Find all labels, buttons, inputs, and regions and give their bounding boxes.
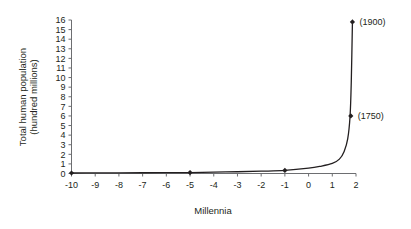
y-axis-tick-label: 1: [60, 159, 65, 169]
y-axis-tick-label: 6: [60, 111, 65, 121]
chart-canvas: 012345678910111213141516 -10-9-8-7-6-5-4…: [0, 0, 411, 229]
x-axis-tick-label: -2: [257, 180, 265, 190]
x-axis-tick-label: -5: [186, 180, 194, 190]
x-axis-tick-label: 0: [306, 180, 311, 190]
x-axis-tick-label: -6: [162, 180, 170, 190]
y-axis-tick-label: 13: [55, 44, 65, 54]
data-point-annotation: (1900): [359, 17, 385, 27]
x-axis-tick-label: -3: [233, 180, 241, 190]
y-axis-tick-label: 8: [60, 92, 65, 102]
x-axis-tick-label: -4: [210, 180, 218, 190]
x-axis-tick-label: -1: [281, 180, 289, 190]
y-axis-tick-label: 3: [60, 140, 65, 150]
y-axis-tick-label: 14: [55, 34, 65, 44]
x-axis-tick-label: 1: [330, 180, 335, 190]
data-point-annotation: (1750): [358, 111, 384, 121]
population-growth-chart: 012345678910111213141516 -10-9-8-7-6-5-4…: [0, 0, 411, 229]
y-axis-title: Total human population (hundred millions…: [17, 48, 39, 146]
y-axis-tick-label: 15: [55, 25, 65, 35]
y-axis-tick-label: 4: [60, 130, 65, 140]
y-axis-tick-label: 16: [55, 15, 65, 25]
y-axis-tick-label: 2: [60, 150, 65, 160]
y-axis-tick-label: 0: [60, 169, 65, 179]
y-axis-tick-label: 7: [60, 102, 65, 112]
x-axis-tick-label: -9: [91, 180, 99, 190]
x-axis-tick-label: 2: [353, 180, 358, 190]
y-axis-tick-label: 5: [60, 121, 65, 131]
y-axis-title-line2: (hundred millions): [28, 59, 39, 135]
y-axis-title-line1: Total human population: [17, 48, 28, 146]
x-axis-tick-label: -8: [115, 180, 123, 190]
x-axis-title: Millennia: [194, 205, 232, 216]
y-axis-tick-label: 11: [56, 63, 65, 73]
y-axis-tick-label: 9: [60, 82, 65, 92]
x-axis-tick-label: -7: [139, 180, 147, 190]
y-axis-tick-label: 12: [55, 54, 65, 64]
y-axis-tick-label: 10: [55, 73, 65, 83]
x-axis-tick-label: -10: [65, 180, 78, 190]
